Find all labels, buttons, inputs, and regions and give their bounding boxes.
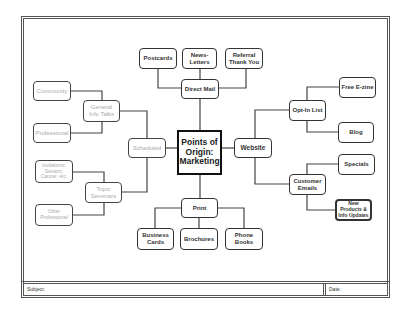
node-topic-seminars: Topic Seminars [85, 182, 122, 203]
node-free-ezine: Free E-zine [339, 77, 376, 98]
node-community: Community [33, 81, 71, 101]
node-newsletters: News-Letters [182, 48, 217, 69]
subject-field[interactable]: Subject: [27, 286, 45, 292]
connector-topic-scheduled [122, 158, 147, 192]
node-scheduled: Scheduled [128, 138, 166, 158]
connector-customer-website [255, 158, 289, 184]
footer-bar: Subject: Date: [21, 281, 390, 298]
connector-newproducts-customer [307, 195, 335, 210]
node-direct-mail: Direct Mail [181, 79, 219, 99]
node-referral-thank-you: Referral Thank You [225, 48, 263, 69]
connector-referral-directmail [219, 69, 246, 88]
connector-optin-website [255, 110, 289, 138]
node-business-cards: Business Cards [137, 228, 174, 250]
node-brochures: Brochures [180, 228, 218, 250]
node-center-points-of-origin: Points of Origin: Marketing [177, 130, 222, 175]
node-customer-emails: Customer Emails [289, 174, 326, 195]
node-blog: Blog [338, 122, 374, 143]
node-website: Website [234, 138, 272, 158]
connector-postcards-directmail [158, 69, 182, 88]
footer-divider [323, 284, 326, 295]
node-professional: Professional [33, 123, 71, 143]
node-new-products: New Products & Info Updates [335, 199, 372, 221]
connector-professional-generalinfo [71, 122, 102, 133]
node-postcards: Postcards [139, 48, 177, 69]
node-opt-in-list: Opt-In List [289, 100, 326, 121]
connector-blog-optin [307, 121, 338, 132]
connector-specials-customer [307, 164, 338, 174]
node-phone-books: Phone Books [225, 228, 263, 250]
node-other-professional: Other Professional [35, 204, 73, 226]
node-invitations: Invitations: Seniors, Cancer, etc. [35, 160, 73, 183]
connector-business-print [155, 208, 181, 228]
connector-ezine-optin [307, 87, 339, 100]
node-general-info-talks: General Info Talks [83, 100, 120, 122]
node-specials: Specials [338, 154, 375, 175]
connector-phone-print [218, 208, 244, 228]
node-print: Print [181, 198, 218, 218]
connector-generalinfo-scheduled [120, 111, 147, 138]
date-field[interactable]: Date: [329, 286, 341, 292]
connector-community-generalinfo [71, 91, 102, 100]
connector-otherprof-topic [73, 203, 104, 215]
connector-invitations-topic [73, 172, 104, 182]
